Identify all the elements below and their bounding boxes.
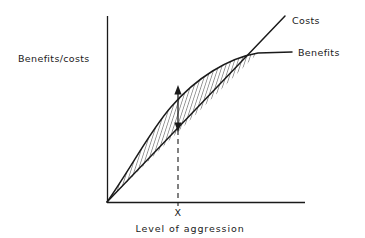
axes (107, 16, 305, 203)
x-tick-label: X (175, 207, 182, 218)
surplus-region (107, 53, 258, 202)
series-costs-line (107, 16, 285, 202)
series-benefits-curve (107, 52, 292, 202)
x-axis-label: Level of aggression (135, 223, 244, 234)
benefits-costs-diagram: Benefits/costs X Level of aggression Cos… (0, 0, 365, 238)
y-axis-label: Benefits/costs (18, 53, 90, 64)
figure-container: Benefits/costs X Level of aggression Cos… (0, 0, 365, 238)
series-label-benefits: Benefits (298, 47, 340, 58)
series-label-costs: Costs (292, 15, 320, 26)
